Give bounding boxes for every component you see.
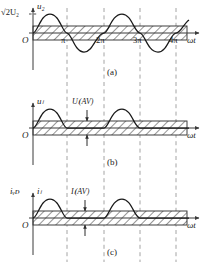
xtick-4pi-a: 4π bbox=[169, 36, 178, 45]
xtick-pi-a: π bbox=[61, 36, 65, 45]
average-label-b: Uₗ(AV) bbox=[72, 98, 93, 106]
panel-caption-c: (c) bbox=[107, 248, 117, 257]
origin-label-a: O bbox=[22, 36, 29, 45]
x-axis-label-b: ωt bbox=[187, 131, 196, 140]
y-axis-label-c-left: iᵥᴅ bbox=[10, 187, 20, 196]
average-label-c: Iₗ(AV) bbox=[71, 188, 89, 196]
panel-b bbox=[29, 103, 199, 165]
x-axis-label-a: ωt bbox=[187, 36, 196, 45]
xtick-2pi-a: 2π bbox=[96, 36, 105, 45]
amplitude-label-a: √2U₂ bbox=[1, 8, 19, 17]
origin-label-b: O bbox=[22, 131, 29, 140]
panel-caption-a: (a) bbox=[107, 68, 117, 77]
y-axis-label-b: uₗ bbox=[37, 97, 43, 106]
x-axis-label-c: ωt bbox=[187, 221, 196, 230]
origin-label-c: O bbox=[22, 221, 29, 230]
panel-caption-b: (b) bbox=[107, 158, 118, 167]
y-axis-label-a: u₂ bbox=[37, 2, 45, 11]
waveform-figure: √2U₂ u₂ O π 2π 3π 4π ωt (a) uₗ O Uₗ(AV) … bbox=[0, 0, 205, 272]
xtick-3pi-a: 3π bbox=[133, 36, 142, 45]
y-axis-label-c-right: iₗ bbox=[37, 187, 41, 196]
panel-c bbox=[29, 193, 199, 255]
